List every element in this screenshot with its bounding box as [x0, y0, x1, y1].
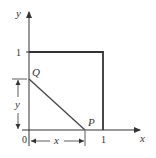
- y-axis-label: y: [15, 7, 21, 19]
- point-q-label: Q: [32, 66, 40, 78]
- x-tick-label-1: 1: [101, 134, 106, 145]
- unit-square-diagram: y x 1 1 0 Q P y x: [0, 0, 156, 158]
- segment-qp: [29, 79, 85, 130]
- y-dimension-label: y: [14, 98, 20, 110]
- x-dimension-label: x: [53, 134, 59, 146]
- point-p-label: P: [87, 116, 95, 128]
- x-axis-label: x: [139, 132, 145, 144]
- y-tick-label-1: 1: [16, 47, 21, 58]
- origin-label: 0: [22, 134, 27, 145]
